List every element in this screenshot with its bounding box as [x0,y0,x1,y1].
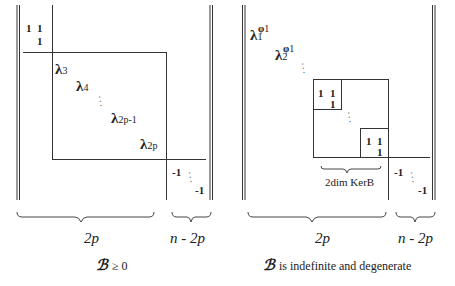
kernel-block-entry: 1 [366,136,372,147]
block-entry: 1 [37,36,43,47]
caption: ℬ is indefinite and degenerate [263,257,411,273]
neg-one-entry: -1 [195,185,204,196]
bilinear-form-symbol: ℬ [96,257,108,273]
eigenvalue-lambda-2p-1: λ2p-1 [111,110,137,126]
neg-one-entry: -1 [418,185,427,196]
kernel-block-entry: 1 [318,88,324,99]
bilinear-form-symbol: ℬ [263,257,275,273]
caption: ℬ ≥ 0 [96,257,128,273]
kernel-label: 2dim KerB [325,177,374,188]
phi-superscript: φ1 [258,19,269,35]
right-matrix-panel: λ1 φ1 λ2 φ1 ⋱ 1 1 1 ⋱ 1 1 1 2dim KerB -1… [230,0,455,286]
eigenvalue-lambda-4: λ4 [76,78,88,94]
brace-2p-left [17,212,154,222]
phi-superscript: φ1 [283,39,294,55]
neg-one-entry: -1 [172,167,181,178]
brace-label-2p: 2p [84,231,99,246]
eigenvalue-lambda-2p: λ2p [140,136,157,152]
kernel-block-entry: 1 [330,99,336,110]
brace-label-2p: 2p [315,231,330,246]
brace-n-2p-left [172,212,211,222]
eigenvalue-lambda-3: λ3 [55,61,67,77]
block-entry: 1 [26,23,32,34]
brace-label-n-2p: n - 2p [398,231,433,246]
kernel-block-entry: 1 [377,147,383,158]
neg-one-entry: -1 [394,167,403,178]
left-matrix-panel: 1 1 1 λ3 λ4 ⋱ λ2p-1 λ2p -1 ⋱ -1 2p n - 2… [0,0,230,286]
block-entry: 1 [37,23,43,34]
brace-label-n-2p: n - 2p [170,231,205,246]
